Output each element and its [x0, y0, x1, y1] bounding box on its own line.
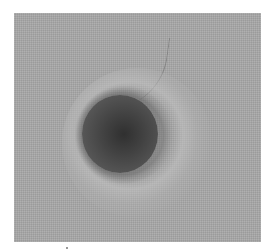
speck	[66, 247, 68, 249]
dark-circular-spot	[82, 95, 158, 173]
photograph	[14, 13, 261, 242]
